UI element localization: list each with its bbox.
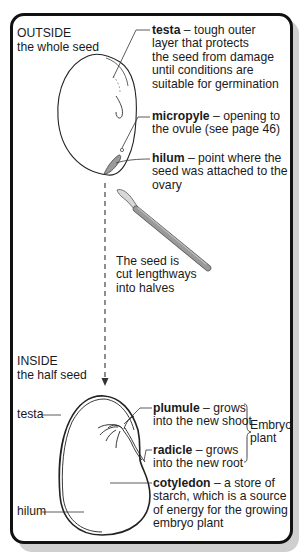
cut-note-line: The seed is	[116, 255, 197, 268]
label-line: into the new root	[153, 457, 243, 470]
label-radicle: radicle – grows into the new root	[153, 444, 243, 471]
cut-note: The seed is cut lengthways into halves	[116, 255, 197, 295]
label-line: seed was attached to the	[152, 165, 288, 178]
label-line: into the new shoot	[153, 415, 252, 428]
label-micropyle: micropyle – opening to the ovule (see pa…	[152, 110, 280, 137]
label-line: suitable for germination	[152, 78, 279, 91]
label-line: – a store of	[211, 476, 275, 490]
label-hilum-inside: hilum	[17, 505, 46, 518]
inside-heading: INSIDE the half seed	[17, 355, 87, 382]
outside-heading-subtitle: the whole seed	[17, 41, 99, 55]
label-line: – grows	[192, 443, 238, 457]
outside-heading: OUTSIDE the whole seed	[17, 27, 99, 54]
label-line: – point where the	[185, 151, 282, 165]
label-line: – grows	[200, 401, 246, 415]
whole-seed-outline	[58, 54, 137, 175]
term-plumule: plumule	[153, 401, 200, 415]
label-testa-inside: testa	[17, 408, 43, 421]
term-radicle: radicle	[153, 443, 192, 457]
label-plumule: plumule – grows into the new shoot	[153, 402, 252, 429]
label-embryo-plant: Embryo plant	[250, 419, 292, 446]
label-cotyledon: cotyledon – a store of starch, which is …	[153, 477, 288, 531]
label-line: starch, which is a source	[153, 490, 288, 503]
inside-heading-subtitle: the half seed	[17, 369, 87, 383]
cut-arrow-head	[102, 378, 109, 386]
term-testa: testa	[152, 23, 180, 37]
label-line: ovary	[152, 179, 288, 192]
label-testa-outside: testa – tough outer layer that protects …	[152, 24, 279, 91]
label-line: layer that protects	[152, 37, 279, 50]
label-line: the ovule (see page 46)	[152, 123, 280, 136]
label-line: – tough outer	[180, 23, 255, 37]
term-micropyle: micropyle	[152, 109, 210, 123]
label-line: – opening to	[210, 109, 280, 123]
micropyle-dot	[120, 148, 123, 151]
term-hilum: hilum	[152, 151, 185, 165]
inside-heading-title: INSIDE	[17, 355, 87, 369]
hilum-mark	[104, 155, 121, 174]
label-line: of energy for the growing	[153, 504, 288, 517]
label-line: until conditions are	[152, 64, 279, 77]
outside-heading-title: OUTSIDE	[17, 27, 99, 41]
half-seed-outline	[59, 396, 150, 535]
label-line: embryo plant	[153, 517, 288, 530]
label-hilum-outside: hilum – point where the seed was attache…	[152, 152, 288, 192]
embryo-line: Embryo	[250, 419, 292, 432]
term-cotyledon: cotyledon	[153, 476, 211, 490]
embryo-line: plant	[250, 432, 292, 445]
cut-note-line: into halves	[116, 282, 197, 295]
cut-note-line: cut lengthways	[116, 268, 197, 281]
label-line: the seed from damage	[152, 51, 279, 64]
